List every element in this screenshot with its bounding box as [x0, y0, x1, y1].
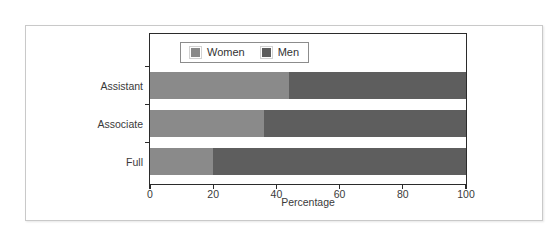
bar-segment-assistant-women: [150, 72, 289, 99]
bar-segment-full-women: [150, 148, 213, 175]
bar-row-assistant: [150, 72, 466, 99]
bar-segment-full-men: [213, 148, 466, 175]
plot-frame: Assistant Associate Full 020: [149, 33, 467, 185]
y-axis-label-full: Full: [126, 156, 143, 167]
figure-card: Assistant Associate Full 020: [25, 25, 543, 221]
legend-item-women: Women: [190, 47, 245, 58]
bar-segment-associate-women: [150, 110, 264, 137]
bar-row-associate: [150, 110, 466, 137]
y-axis-label-assistant: Assistant: [100, 80, 143, 91]
bar-segment-associate-men: [264, 110, 466, 137]
legend-swatch-women: [190, 47, 201, 58]
x-axis-title: Percentage: [149, 196, 467, 208]
bar-segment-assistant-men: [289, 72, 466, 99]
bar-row-full: [150, 148, 466, 175]
screenshot-root: Assistant Associate Full 020: [0, 0, 549, 233]
legend-swatch-men: [261, 47, 272, 58]
chart-legend: Women Men: [180, 42, 309, 63]
legend-label-men: Men: [278, 47, 299, 58]
y-axis-label-associate: Associate: [97, 118, 143, 129]
legend-label-women: Women: [207, 47, 245, 58]
legend-item-men: Men: [261, 47, 299, 58]
